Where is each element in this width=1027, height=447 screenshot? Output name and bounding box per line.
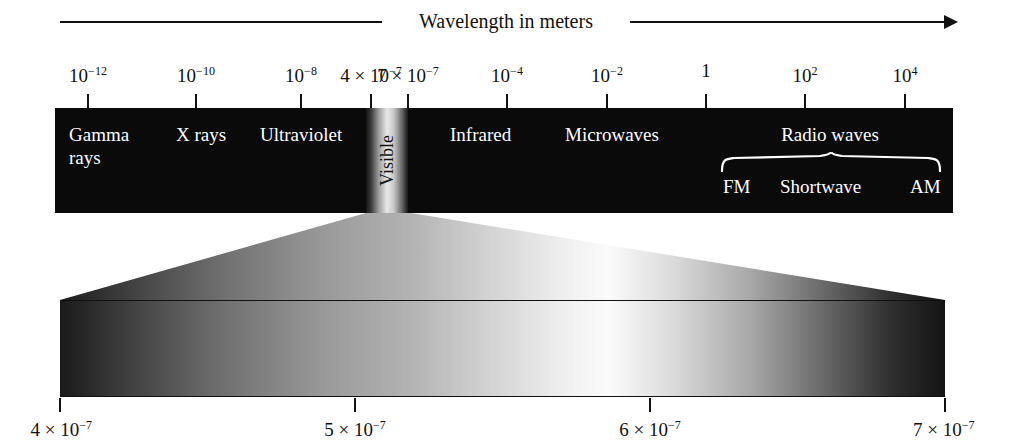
top-axis-tick-label: 1 [701,60,711,82]
band-label-gamma-line2: rays [69,146,129,169]
axis-caption: Wavelength in meters [386,8,626,34]
arrow-line-right [630,21,948,23]
band-label-infrared: Infrared [450,123,511,146]
top-axis-tick-mark [300,94,302,108]
top-axis-tick-label: 10−4 [491,60,523,87]
band-label-gamma-rays: Gamma rays [69,123,129,169]
top-axis-tick-mark [195,94,197,108]
wavelength-axis-arrow: Wavelength in meters [0,0,1027,40]
arrow-line-left [60,21,382,23]
band-label-visible-text: Visible [377,135,398,186]
band-label-ultraviolet: Ultraviolet [260,123,342,146]
visible-spectrum-detail-bar [60,300,945,397]
band-label-am: AM [910,175,941,198]
top-axis-tick-mark [506,94,508,108]
top-axis-tick-label: 104 [893,60,918,87]
top-axis-tick-exponent: −8 [304,64,317,78]
top-axis-tick-exponent: −4 [510,64,523,78]
top-axis-tick-label: 7 × 10−7 [377,60,439,87]
band-label-visible: Visible [366,108,408,213]
top-axis-tick-label: 10−8 [285,60,317,87]
electromagnetic-spectrum-figure: Wavelength in meters 10−1210−1010−84 × 1… [0,0,1027,447]
top-axis-tick-label: 10−10 [177,60,215,87]
top-axis-tick-exponent: −12 [88,64,107,78]
spectrum-band: Gamma rays X rays Ultraviolet Visible In… [55,108,953,213]
top-axis-tick-mark [804,94,806,108]
top-axis-tick-exponent: 2 [812,64,818,78]
top-axis-tick-exponent: −2 [610,64,623,78]
detail-axis-tick-exponent: −7 [373,418,386,432]
top-axis-tick-mark [87,94,89,108]
band-label-x-rays: X rays [176,123,226,146]
band-label-radio-waves: Radio waves [725,123,935,146]
band-label-microwaves: Microwaves [565,123,659,146]
detail-axis-tick-label: 4 × 10−7 [30,414,91,441]
detail-axis-tick-mark [944,398,946,412]
top-axis-tick-exponent: −7 [426,64,439,78]
top-axis-tick-mark [370,94,372,108]
top-axis-tick-mark [606,94,608,108]
top-axis-tick-exponent: 4 [912,64,918,78]
top-axis-tick-label: 102 [793,60,818,87]
arrow-head-icon [944,15,958,29]
detail-axis-tick-exponent: −7 [668,418,681,432]
radio-waves-brace-icon [720,152,942,172]
top-axis-tick-mark [904,94,906,108]
detail-axis-tick-mark [354,398,356,412]
top-axis-tick-exponent: −10 [196,64,215,78]
detail-axis-tick-label: 7 × 10−7 [913,414,975,441]
top-axis-tick-mark [705,94,707,108]
top-axis-tick-mark [407,94,409,108]
band-label-gamma-line1: Gamma [69,123,129,146]
band-label-fm: FM [723,175,750,198]
detail-axis-tick-exponent: −7 [962,418,975,432]
detail-axis-tick-label: 6 × 10−7 [619,414,681,441]
detail-axis-tick-exponent: −7 [79,418,92,432]
top-axis-tick-label: 10−12 [69,60,107,87]
detail-axis-tick-mark [649,398,651,412]
band-label-shortwave: Shortwave [780,175,861,198]
detail-axis-tick-label: 5 × 10−7 [324,414,386,441]
visible-light-funnel [0,213,1027,303]
top-axis-tick-label: 10−2 [591,60,623,87]
detail-axis-tick-mark [59,398,61,412]
